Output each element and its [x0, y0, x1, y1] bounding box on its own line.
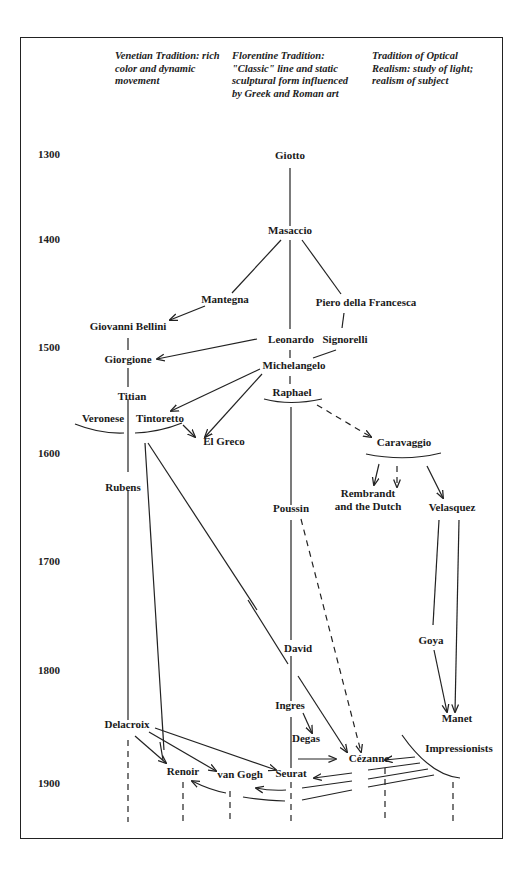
node-caravaggio: Caravaggio: [377, 436, 431, 449]
node-seurat: Seurat: [275, 767, 306, 780]
node-ingres: Ingres: [275, 699, 305, 712]
node-impressionists: Impressionists: [425, 742, 493, 755]
node-raphael: Raphael: [272, 386, 311, 399]
node-rembrandt: Rembrandt and the Dutch: [335, 487, 402, 513]
node-cezanne: Cézanne: [349, 752, 389, 765]
node-mantegna: Mantegna: [201, 293, 249, 306]
node-giorgione: Giorgione: [104, 353, 151, 366]
node-renoir: Renoir: [167, 765, 199, 778]
node-goya: Goya: [418, 634, 443, 647]
node-poussin: Poussin: [273, 502, 309, 515]
node-titian: Titian: [118, 390, 147, 403]
node-rubens: Rubens: [105, 481, 140, 494]
node-masaccio: Masaccio: [268, 224, 312, 237]
node-david: David: [284, 642, 312, 655]
node-signorelli: Signorelli: [322, 333, 367, 346]
node-piero-della-francesca: Piero della Francesca: [316, 296, 417, 309]
node-giotto: Giotto: [275, 149, 305, 162]
node-manet: Manet: [442, 712, 473, 725]
node-leonardo: Leonardo: [268, 333, 314, 346]
node-veronese: Veronese: [82, 412, 124, 425]
node-van-gogh: van Gogh: [217, 768, 263, 781]
node-velasquez: Velasquez: [429, 501, 476, 514]
node-rembrandt-line1: Rembrandt: [335, 487, 402, 500]
node-delacroix: Delacroix: [104, 718, 149, 731]
node-rembrandt-line2: and the Dutch: [335, 500, 402, 513]
node-giovanni-bellini: Giovanni Bellini: [90, 320, 167, 333]
node-michelangelo: Michelangelo: [263, 359, 326, 372]
node-tintoretto: Tintoretto: [136, 412, 184, 425]
node-el-greco: El Greco: [203, 435, 245, 448]
node-degas: Degas: [292, 732, 320, 745]
